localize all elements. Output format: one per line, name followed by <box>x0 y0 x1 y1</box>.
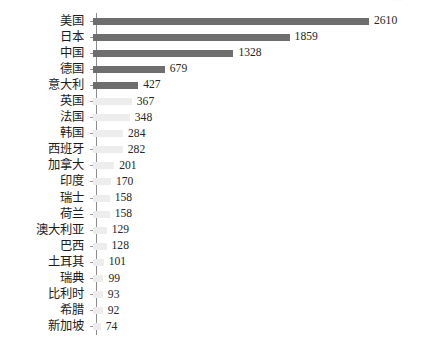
bar <box>93 162 114 169</box>
category-label: 日本 <box>0 31 90 44</box>
bar-chart: 美国2610日本1859中国1328德国679意大利427英国367法国348韩… <box>0 13 421 346</box>
bar-zone: 99 <box>93 271 421 287</box>
bar-row: 荷兰158 <box>0 206 421 222</box>
category-label: 巴西 <box>0 240 90 253</box>
bar <box>93 195 110 202</box>
bar-zone: 367 <box>93 93 421 109</box>
bar <box>93 82 138 89</box>
bar <box>93 211 110 218</box>
category-label: 中国 <box>0 47 90 60</box>
bar-row: 土耳其101 <box>0 254 421 270</box>
bar-value-label: 128 <box>107 240 129 252</box>
bar-value-label: 74 <box>101 321 118 333</box>
bar <box>93 66 165 73</box>
bar-value-label: 201 <box>114 160 136 172</box>
category-label: 新加坡 <box>0 320 90 333</box>
bar-zone: 1859 <box>93 29 421 45</box>
bar-row: 希腊92 <box>0 303 421 319</box>
bar-zone: 1328 <box>93 45 421 61</box>
bar-row: 澳大利亚129 <box>0 222 421 238</box>
bar-row: 巴西128 <box>0 238 421 254</box>
bar-zone: 158 <box>93 206 421 222</box>
category-label: 韩国 <box>0 127 90 140</box>
category-label: 英国 <box>0 95 90 108</box>
bar-zone: 284 <box>93 126 421 142</box>
bar <box>93 291 103 298</box>
bar <box>93 178 111 185</box>
category-label: 荷兰 <box>0 208 90 221</box>
bar-value-label: 282 <box>123 144 145 156</box>
bar-value-label: 348 <box>130 112 152 124</box>
bar <box>93 34 290 41</box>
bar <box>93 259 104 266</box>
category-label: 瑞典 <box>0 272 90 285</box>
bar-row: 西班牙282 <box>0 142 421 158</box>
category-label: 加拿大 <box>0 159 90 172</box>
bar-value-label: 367 <box>132 96 154 108</box>
bar-zone: 158 <box>93 190 421 206</box>
bar-row: 意大利427 <box>0 77 421 93</box>
bar-row: 比利时93 <box>0 287 421 303</box>
bar <box>93 243 107 250</box>
bar <box>93 227 107 234</box>
category-label: 西班牙 <box>0 143 90 156</box>
bar-zone: 201 <box>93 158 421 174</box>
bar-zone: 282 <box>93 142 421 158</box>
bar-value-label: 1328 <box>233 47 261 59</box>
bar-zone: 101 <box>93 254 421 270</box>
clipped-header-label: 世界各国工业机器人保有量（台）国际机器人联合会（IFR）统计数据 <box>2 0 402 1</box>
bar-zone: 679 <box>93 61 421 77</box>
bar-value-label: 2610 <box>369 15 397 27</box>
bar <box>93 18 369 25</box>
bar-row: 英国367 <box>0 93 421 109</box>
bar-row: 瑞士158 <box>0 190 421 206</box>
bar-row: 美国2610 <box>0 13 421 29</box>
bar-value-label: 284 <box>123 128 145 140</box>
bar-row: 中国1328 <box>0 45 421 61</box>
bar-row: 瑞典99 <box>0 271 421 287</box>
category-label: 法国 <box>0 111 90 124</box>
bar-value-label: 158 <box>110 192 132 204</box>
bar-row: 韩国284 <box>0 126 421 142</box>
bar <box>93 323 101 330</box>
bar <box>93 50 233 57</box>
bar <box>93 275 103 282</box>
bar-row: 德国679 <box>0 61 421 77</box>
bar-row: 印度170 <box>0 174 421 190</box>
bar-zone: 170 <box>93 174 421 190</box>
bar-value-label: 92 <box>103 305 120 317</box>
bar-value-label: 158 <box>110 208 132 220</box>
category-label: 比利时 <box>0 288 90 301</box>
bar-value-label: 679 <box>165 63 187 75</box>
bar <box>93 130 123 137</box>
bar-zone: 128 <box>93 238 421 254</box>
category-label: 土耳其 <box>0 256 90 269</box>
bar-zone: 92 <box>93 303 421 319</box>
bar-row: 日本1859 <box>0 29 421 45</box>
bar <box>93 114 130 121</box>
bar-value-label: 1859 <box>290 31 318 43</box>
bar-value-label: 99 <box>103 273 120 285</box>
bar-row: 新加坡74 <box>0 319 421 335</box>
bar-zone: 2610 <box>93 13 421 29</box>
clipped-header-text: 世界各国工业机器人保有量（台）国际机器人联合会（IFR）统计数据 <box>0 0 421 11</box>
bar-value-label: 93 <box>103 289 120 301</box>
category-label: 德国 <box>0 63 90 76</box>
bar <box>93 146 123 153</box>
category-label: 瑞士 <box>0 192 90 205</box>
bar <box>93 307 103 314</box>
bar-value-label: 129 <box>107 224 129 236</box>
bar-zone: 93 <box>93 287 421 303</box>
category-label: 印度 <box>0 175 90 188</box>
bar-value-label: 427 <box>138 79 160 91</box>
category-label: 美国 <box>0 15 90 28</box>
category-label: 澳大利亚 <box>0 224 90 237</box>
category-label: 希腊 <box>0 304 90 317</box>
bar-value-label: 170 <box>111 176 133 188</box>
bar-value-label: 101 <box>104 256 126 268</box>
bar-zone: 427 <box>93 77 421 93</box>
bar-row: 加拿大201 <box>0 158 421 174</box>
bar <box>93 98 132 105</box>
bar-zone: 74 <box>93 319 421 335</box>
bar-zone: 129 <box>93 222 421 238</box>
